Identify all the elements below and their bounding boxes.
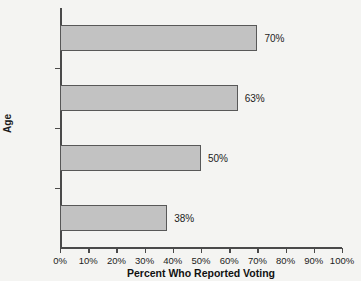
x-tick-mark [342,248,343,253]
bar-rect [60,85,238,111]
x-tick-mark [60,248,61,253]
bar-rect [60,145,201,171]
x-tick-mark [116,248,117,253]
bar-rect [60,25,257,51]
bar-value-label: 50% [208,153,228,164]
bar-rect [60,205,167,231]
x-tick-mark [286,248,287,253]
bar-item: 70% [60,25,342,51]
x-tick-mark [145,248,146,253]
bar-item: 63% [60,85,342,111]
bar-value-label: 38% [174,213,194,224]
y-tick-mark [55,128,60,129]
y-tick-mark [55,188,60,189]
bar-item: 50% [60,145,342,171]
x-tick-mark [314,248,315,253]
bar-value-label: 63% [245,93,265,104]
x-tick-mark [201,248,202,253]
x-tick-mark [229,248,230,253]
x-axis-title: Percent Who Reported Voting [60,267,342,279]
bar-chart: Age 65+45–6425–4418–24 70%63%50%38% 0%10… [0,0,361,281]
x-tick-mark [173,248,174,253]
x-tick-mark [257,248,258,253]
x-tick-label: 100% [322,255,361,266]
x-tick-mark [88,248,89,253]
bar-value-label: 70% [264,33,284,44]
bar-item: 38% [60,205,342,231]
y-axis-title: Age [2,104,13,144]
y-tick-mark [55,68,60,69]
